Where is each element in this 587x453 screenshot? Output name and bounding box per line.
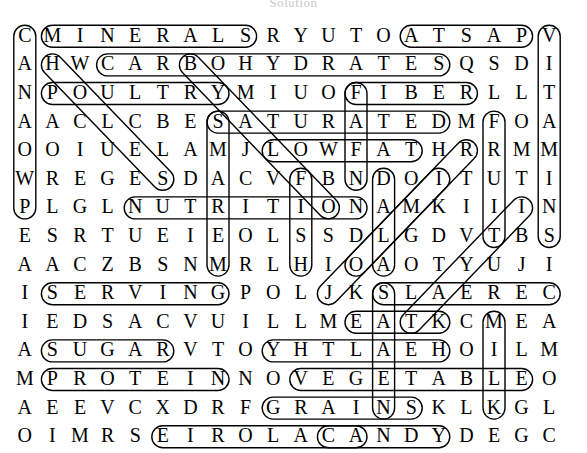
grid-cell[interactable]: R (267, 24, 281, 46)
grid-cell[interactable]: H (294, 338, 308, 360)
grid-cell[interactable]: M (209, 138, 227, 160)
grid-cell[interactable]: E (212, 224, 224, 246)
grid-cell[interactable]: R (294, 396, 308, 418)
grid-cell[interactable]: L (267, 138, 279, 160)
grid-cell[interactable]: B (156, 110, 169, 132)
grid-cell[interactable]: L (515, 81, 527, 103)
grid-cell[interactable]: C (129, 110, 142, 132)
grid-cell[interactable]: E (322, 367, 334, 389)
grid-cell[interactable]: M (458, 110, 476, 132)
grid-cell[interactable]: R (211, 396, 225, 418)
grid-cell[interactable]: E (46, 396, 58, 418)
grid-cell[interactable]: R (487, 138, 501, 160)
grid-cell[interactable]: M (16, 367, 34, 389)
grid-cell[interactable]: I (187, 367, 194, 389)
grid-cell[interactable]: C (73, 253, 86, 275)
grid-cell[interactable]: D (73, 310, 87, 332)
grid-cell[interactable]: T (267, 195, 279, 217)
grid-cell[interactable]: F (295, 167, 306, 189)
grid-cell[interactable]: I (159, 281, 166, 303)
grid-cell[interactable]: R (156, 24, 170, 46)
grid-cell[interactable]: L (488, 81, 500, 103)
grid-cell[interactable]: I (491, 338, 498, 360)
grid-cell[interactable]: P (47, 81, 58, 103)
grid-cell[interactable]: S (130, 424, 141, 446)
grid-cell[interactable]: E (19, 224, 31, 246)
grid-cell[interactable]: I (242, 310, 249, 332)
grid-cell[interactable]: A (45, 253, 60, 275)
grid-cell[interactable]: C (129, 396, 142, 418)
grid-cell[interactable]: G (514, 424, 528, 446)
grid-cell[interactable]: L (157, 138, 169, 160)
grid-cell[interactable]: A (18, 338, 33, 360)
grid-cell[interactable]: L (488, 367, 500, 389)
grid-cell[interactable]: T (433, 24, 445, 46)
grid-cell[interactable]: O (321, 195, 335, 217)
grid-cell[interactable]: E (74, 396, 86, 418)
grid-cell[interactable]: L (295, 310, 307, 332)
grid-cell[interactable]: Y (432, 424, 446, 446)
grid-cell[interactable]: A (432, 281, 447, 303)
grid-cell[interactable]: F (350, 138, 361, 160)
grid-cell[interactable]: O (18, 138, 32, 160)
grid-cell[interactable]: N (183, 253, 197, 275)
grid-cell[interactable]: I (435, 167, 442, 189)
grid-cell[interactable]: O (45, 138, 59, 160)
grid-cell[interactable]: I (325, 253, 332, 275)
grid-cell[interactable]: C (156, 310, 169, 332)
grid-cell[interactable]: S (295, 224, 306, 246)
grid-cell[interactable]: E (460, 281, 472, 303)
grid-cell[interactable]: I (463, 195, 470, 217)
grid-cell[interactable]: I (77, 24, 84, 46)
grid-cell[interactable]: N (349, 167, 363, 189)
grid-cell[interactable]: O (404, 253, 418, 275)
grid-cell[interactable]: N (349, 195, 363, 217)
grid-cell[interactable]: E (433, 81, 445, 103)
grid-cell[interactable]: A (349, 110, 364, 132)
grid-cell[interactable]: D (432, 224, 446, 246)
grid-cell[interactable]: U (73, 338, 88, 360)
grid-cell[interactable]: R (322, 52, 336, 74)
grid-cell[interactable]: J (518, 253, 526, 275)
grid-cell[interactable]: A (18, 396, 33, 418)
grid-cell[interactable]: R (156, 52, 170, 74)
grid-cell[interactable]: I (380, 81, 387, 103)
grid-cell[interactable]: A (432, 367, 447, 389)
grid-cell[interactable]: Y (211, 81, 225, 103)
grid-cell[interactable]: L (129, 81, 141, 103)
grid-cell[interactable]: S (157, 253, 168, 275)
grid-cell[interactable]: O (294, 138, 308, 160)
grid-cell[interactable]: A (376, 195, 391, 217)
grid-cell[interactable]: S (47, 281, 58, 303)
grid-cell[interactable]: E (377, 367, 389, 389)
grid-cell[interactable]: O (238, 224, 252, 246)
grid-cell[interactable]: S (544, 224, 555, 246)
grid-cell[interactable]: M (71, 424, 89, 446)
grid-cell[interactable]: L (405, 281, 417, 303)
grid-cell[interactable]: C (322, 424, 335, 446)
grid-cell[interactable]: S (488, 52, 499, 74)
grid-cell[interactable]: O (321, 81, 335, 103)
grid-cell[interactable]: R (184, 81, 198, 103)
grid-cell[interactable]: M (44, 24, 62, 46)
grid-cell[interactable]: G (73, 195, 87, 217)
grid-cell[interactable]: V (542, 24, 557, 46)
grid-cell[interactable]: T (267, 110, 279, 132)
grid-cell[interactable]: E (157, 224, 169, 246)
grid-cell[interactable]: T (543, 81, 555, 103)
grid-cell[interactable]: N (542, 195, 556, 217)
grid-cell[interactable]: C (101, 52, 114, 74)
grid-cell[interactable]: A (211, 167, 226, 189)
grid-cell[interactable]: N (211, 367, 225, 389)
grid-cell[interactable]: V (128, 281, 143, 303)
grid-cell[interactable]: I (270, 81, 277, 103)
grid-cell[interactable]: U (156, 195, 171, 217)
grid-cell[interactable]: A (128, 338, 143, 360)
grid-cell[interactable]: I (491, 195, 498, 217)
grid-cell[interactable]: L (515, 338, 527, 360)
grid-cell[interactable]: W (15, 167, 34, 189)
grid-cell[interactable]: E (74, 167, 86, 189)
grid-cell[interactable]: V (266, 167, 281, 189)
grid-cell[interactable]: I (49, 424, 56, 446)
grid-cell[interactable]: O (266, 281, 280, 303)
